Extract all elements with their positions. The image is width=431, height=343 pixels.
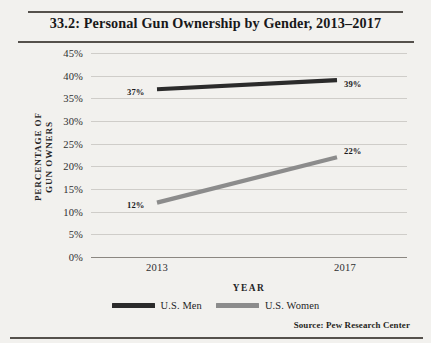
x-axis-title: YEAR: [91, 283, 407, 293]
y-tick-35: 35%: [43, 93, 83, 104]
point-label-women-2017: 22%: [344, 146, 362, 156]
bottom-rule: [10, 337, 423, 339]
title-underline-rule: [18, 41, 414, 43]
x-tick-2017: 2017: [310, 262, 380, 273]
legend-item-us-women[interactable]: U.S. Women: [216, 300, 319, 311]
y-tick-5: 5%: [43, 229, 83, 240]
legend-swatch-icon-us-men: [112, 303, 155, 308]
legend: U.S. Men U.S. Women: [0, 300, 431, 311]
y-axis-title: PERCENTAGE OF GUN OWNERS: [26, 92, 60, 222]
series-line-women: [157, 157, 337, 202]
y-tick-10: 10%: [43, 206, 83, 217]
y-axis-title-line2: GUN OWNERS: [44, 121, 54, 193]
y-tick-30: 30%: [43, 116, 83, 127]
y-tick-45: 45%: [43, 48, 83, 59]
x-tick-2013: 2013: [122, 262, 192, 273]
y-tick-15: 15%: [43, 184, 83, 195]
legend-swatch-icon-us-women: [216, 303, 259, 308]
chart-title: 33.2: Personal Gun Ownership by Gender, …: [0, 15, 431, 32]
y-tick-0: 0%: [43, 252, 83, 263]
y-tick-40: 40%: [43, 70, 83, 81]
point-label-women-2013: 12%: [127, 200, 145, 210]
legend-label-us-women: U.S. Women: [265, 300, 319, 311]
y-tick-20: 20%: [43, 161, 83, 172]
legend-label-us-men: U.S. Men: [161, 300, 202, 311]
figure-container: 33.2: Personal Gun Ownership by Gender, …: [0, 0, 431, 343]
point-label-men-2013: 37%: [127, 87, 145, 97]
legend-item-us-men[interactable]: U.S. Men: [112, 300, 202, 311]
source-note: Source: Pew Research Center: [294, 320, 410, 330]
y-tick-25: 25%: [43, 138, 83, 149]
series-line-men: [157, 80, 337, 89]
top-rule: [28, 11, 403, 13]
point-label-men-2017: 39%: [344, 79, 362, 89]
y-axis-title-line1: PERCENTAGE OF: [33, 112, 43, 201]
